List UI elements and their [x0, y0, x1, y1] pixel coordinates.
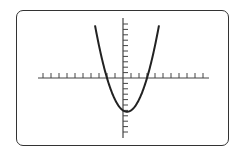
parabola-curve — [95, 25, 159, 111]
graph-plot — [0, 0, 241, 155]
